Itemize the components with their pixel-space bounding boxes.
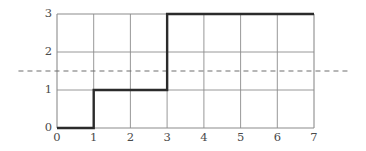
ytick-label-3: 3	[45, 8, 52, 20]
step-function-chart: 0 1 2 3 0 1 2 3 4 5 6 7	[0, 0, 366, 151]
xtick-label-0: 0	[53, 132, 60, 144]
ytick-label-2: 2	[45, 46, 52, 58]
xtick-label-7: 7	[310, 132, 317, 144]
xtick-label-1: 1	[90, 132, 97, 144]
xtick-label-4: 4	[200, 132, 207, 144]
xtick-label-6: 6	[274, 132, 281, 144]
ytick-label-1: 1	[45, 84, 52, 96]
xtick-label-5: 5	[237, 132, 244, 144]
ytick-label-0: 0	[45, 122, 52, 134]
xtick-label-3: 3	[163, 132, 170, 144]
plot-canvas	[0, 0, 366, 151]
xtick-label-2: 2	[127, 132, 134, 144]
